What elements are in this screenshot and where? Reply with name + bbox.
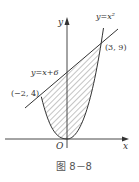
line-label: y=x+6 (30, 68, 59, 77)
y-axis-arrow-icon (65, 17, 70, 25)
x-axis-label: x (123, 141, 128, 151)
right-intersection-label: (3, 9) (105, 43, 127, 52)
figure-canvas: y x O y=x² y=x+6 (3, 9) (−2, 4) 图 8－8 (0, 0, 139, 182)
left-intersection-label: (−2, 4) (11, 89, 39, 98)
parabola-label: y=x² (95, 12, 115, 21)
figure-caption: 图 8－8 (56, 161, 92, 172)
origin-label: O (56, 141, 64, 151)
y-axis-label: y (57, 17, 64, 27)
